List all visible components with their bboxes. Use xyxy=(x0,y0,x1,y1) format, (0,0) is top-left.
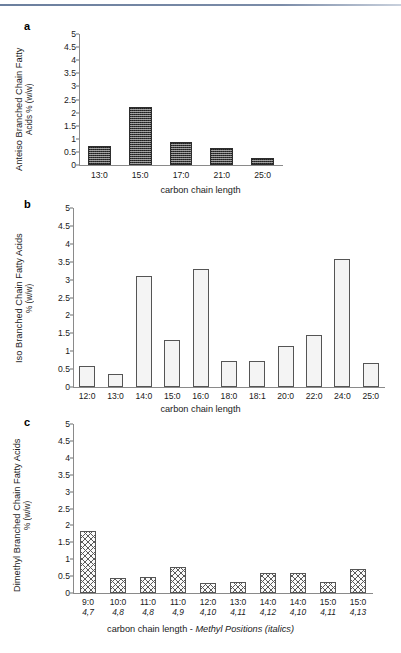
panel-a-y-axis-title-line1: Anteiso Branched Chain Fatty xyxy=(14,47,24,171)
bar-slot xyxy=(158,208,186,387)
panel-c-x-axis-title-italic: Methyl Positions (italics) xyxy=(195,624,294,634)
bar-slot xyxy=(343,424,373,593)
panel-b-plot-area: 00.511.522.533.544.55 xyxy=(73,208,385,388)
x-tick-label: 20:0 xyxy=(272,391,300,401)
x-tick-label: 11:04,9 xyxy=(163,597,193,617)
bar-18-1[interactable] xyxy=(249,361,265,387)
x-tick-label: 12:0 xyxy=(73,391,101,401)
bar-slot xyxy=(163,424,193,593)
bar-25-0[interactable] xyxy=(251,158,274,165)
methyl-position-label: 4,13 xyxy=(343,607,373,617)
bar-16-0[interactable] xyxy=(193,269,209,387)
x-tick-label: 13:0 xyxy=(101,391,129,401)
bar-slot xyxy=(300,208,328,387)
methyl-position-label: 4,11 xyxy=(223,607,253,617)
x-tick-label: 15:04,11 xyxy=(313,597,343,617)
bar-slot xyxy=(133,424,163,593)
bar-slot xyxy=(186,208,214,387)
bar-21-0[interactable] xyxy=(210,148,233,165)
panel-c-y-axis-title: Dimethyl Branched Chain Fatty Acids % (w… xyxy=(12,420,33,610)
bar-15-0[interactable] xyxy=(129,107,152,165)
bar-14-0[interactable] xyxy=(136,276,152,387)
methyl-position-label: 4,9 xyxy=(163,607,193,617)
bar-slot xyxy=(73,424,103,593)
panel-c-x-axis-title: carbon chain length - Methyl Positions (… xyxy=(0,624,401,634)
bar-17-0[interactable] xyxy=(170,142,193,165)
bar-slot xyxy=(283,424,313,593)
panel-c-plot-area: 00.511.522.533.544.55 xyxy=(73,424,373,594)
bar-slot xyxy=(272,208,300,387)
bar-14-0[interactable] xyxy=(290,573,307,593)
bar-13-0[interactable] xyxy=(230,582,247,593)
bar-9-0[interactable] xyxy=(80,531,97,593)
methyl-position-label: 4,12 xyxy=(253,607,283,617)
panel-b-bars xyxy=(73,208,385,387)
x-tick-label: 18:1 xyxy=(243,391,271,401)
x-tick-label: 24:0 xyxy=(328,391,356,401)
x-tick-label: 14:04,12 xyxy=(253,597,283,617)
bar-slot xyxy=(243,208,271,387)
bar-slot xyxy=(161,34,202,165)
panel-b-y-axis-title-line1: Iso Branched Chain Fatty Acids xyxy=(14,233,24,363)
x-tick-label: 9:04,7 xyxy=(73,597,103,617)
bar-18-0[interactable] xyxy=(221,361,237,387)
bar-slot xyxy=(253,424,283,593)
panel-b-y-axis-title-line2: % (w/w) xyxy=(25,283,34,312)
x-tick-label: 21:0 xyxy=(201,170,242,180)
panel-a-y-axis-title-line2: Acids % (w/w) xyxy=(25,83,34,134)
bar-12-0[interactable] xyxy=(200,583,217,593)
panel-a-x-labels: 13:015:017:021:025:0 xyxy=(79,170,283,180)
x-tick-label: 16:0 xyxy=(186,391,214,401)
bar-14-0[interactable] xyxy=(260,573,277,593)
panel-a-letter: a xyxy=(24,20,30,32)
bar-24-0[interactable] xyxy=(334,259,350,387)
panel-c-y-axis-title-line1: Dimethyl Branched Chain Fatty Acids xyxy=(12,438,22,591)
x-tick-label: 14:0 xyxy=(130,391,158,401)
bar-slot xyxy=(357,208,385,387)
bar-25-0[interactable] xyxy=(363,363,379,387)
bar-12-0[interactable] xyxy=(79,366,95,387)
header-rule xyxy=(0,4,401,6)
bar-slot xyxy=(193,424,223,593)
bar-15-0[interactable] xyxy=(164,340,180,387)
panel-c-x-labels: 9:04,710:04,811:04,811:04,912:04,1013:04… xyxy=(73,597,373,617)
bar-11-0[interactable] xyxy=(140,577,157,593)
bar-slot xyxy=(130,208,158,387)
panel-c-x-axis-title-plain: carbon chain length - xyxy=(107,624,195,634)
bar-13-0[interactable] xyxy=(88,146,111,165)
panel-b: b Iso Branched Chain Fatty Acids % (w/w)… xyxy=(0,198,401,416)
bar-13-0[interactable] xyxy=(108,374,124,387)
methyl-position-label: 4,7 xyxy=(73,607,103,617)
x-tick-label: 15:0 xyxy=(120,170,161,180)
bar-15-0[interactable] xyxy=(320,582,337,593)
bar-slot xyxy=(101,208,129,387)
panel-b-x-labels: 12:013:014:015:016:018:018:120:022:024:0… xyxy=(73,391,385,401)
bar-slot xyxy=(313,424,343,593)
bar-22-0[interactable] xyxy=(306,335,322,387)
bar-slot xyxy=(120,34,161,165)
bar-slot xyxy=(215,208,243,387)
methyl-position-label: 4,8 xyxy=(103,607,133,617)
panel-b-x-axis-title: carbon chain length xyxy=(0,404,401,414)
bar-11-0[interactable] xyxy=(170,567,187,593)
bar-slot xyxy=(73,208,101,387)
x-tick-label: 10:04,8 xyxy=(103,597,133,617)
panel-c-y-axis-title-line2: % (w/w) xyxy=(23,500,32,529)
x-tick-label: 12:04,10 xyxy=(193,597,223,617)
panel-a-plot-area: 00.511.522.533.544.55 xyxy=(79,34,283,166)
bar-15-0[interactable] xyxy=(350,569,367,593)
methyl-position-label: 4,8 xyxy=(133,607,163,617)
bar-slot xyxy=(328,208,356,387)
bar-slot xyxy=(79,34,120,165)
bar-10-0[interactable] xyxy=(110,578,127,593)
panel-a-x-axis-title: carbon chain length xyxy=(0,185,401,195)
methyl-position-label: 4,10 xyxy=(193,607,223,617)
panel-a-bars xyxy=(79,34,283,165)
bar-slot xyxy=(242,34,283,165)
panel-b-y-axis-title: Iso Branched Chain Fatty Acids % (w/w) xyxy=(14,208,35,388)
bar-20-0[interactable] xyxy=(278,346,294,387)
x-tick-label: 18:0 xyxy=(215,391,243,401)
x-tick-label: 17:0 xyxy=(161,170,202,180)
x-tick-label: 13:0 xyxy=(79,170,120,180)
panel-a-y-axis-title: Anteiso Branched Chain Fatty Acids % (w/… xyxy=(14,34,35,184)
